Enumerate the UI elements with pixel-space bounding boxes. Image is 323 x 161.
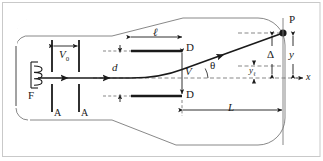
label-deflect-voltage: V [185, 66, 192, 77]
label-spot-point: P [289, 14, 295, 25]
label-plate-separation: d [112, 62, 118, 73]
crt-diagram-svg [0, 0, 323, 161]
label-deflect-plate-top: D [186, 42, 194, 53]
label-plate-length: ℓ [153, 27, 158, 38]
label-anode-left: A [54, 108, 61, 118]
label-delta: Δ [267, 49, 274, 60]
label-deflect-plate-bottom: D [186, 89, 194, 100]
label-filament: F [28, 90, 34, 101]
y-at-plates-subscript: ℓ [253, 71, 256, 77]
label-theta: θ [210, 60, 215, 71]
label-accel-voltage: V0 [59, 49, 69, 63]
label-drift-length: L [228, 102, 234, 113]
label-anode-right: A [81, 108, 88, 118]
label-total-y: y [289, 49, 294, 60]
figure-canvas: F V0 A A d ℓ D D V θ yℓ Δ y x P L [0, 0, 323, 161]
accel-voltage-symbol: V [59, 48, 66, 60]
label-axis-x: x [306, 72, 310, 82]
label-y-at-plates: yℓ [249, 66, 256, 77]
accel-voltage-subscript: 0 [66, 55, 69, 62]
